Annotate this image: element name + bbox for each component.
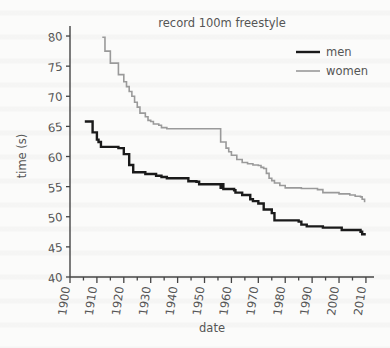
y-tick-label: 70 xyxy=(47,89,63,105)
x-tick-label: 1940 xyxy=(163,285,181,316)
x-tick-label: 1950 xyxy=(190,285,208,316)
x-axis-title: date xyxy=(199,321,225,335)
legend-layer: menwomen xyxy=(296,45,368,78)
y-tick-label: 55 xyxy=(47,180,63,196)
axes-layer: 4045505560657075801900191019201930194019… xyxy=(47,26,374,316)
legend-label-women: women xyxy=(326,64,368,78)
y-tick-label: 80 xyxy=(47,29,63,45)
series-line-men xyxy=(85,122,365,236)
y-tick-label: 65 xyxy=(47,119,63,135)
x-tick-label: 1990 xyxy=(297,285,315,316)
record-100m-freestyle-line-chart: 4045505560657075801900191019201930194019… xyxy=(0,0,390,348)
x-tick-label: 1960 xyxy=(216,285,234,316)
x-tick-label: 1980 xyxy=(270,285,288,316)
y-tick-label: 50 xyxy=(47,210,63,226)
chart-title: record 100m freestyle xyxy=(158,16,285,30)
series-layer xyxy=(85,37,365,235)
y-tick-label: 40 xyxy=(47,270,63,286)
x-tick-label: 1900 xyxy=(55,285,73,316)
x-tick-label: 1970 xyxy=(243,285,261,316)
y-axis-title: time (s) xyxy=(15,134,29,179)
x-tick-label: 2010 xyxy=(351,285,369,316)
series-line-women xyxy=(102,37,364,202)
y-tick-label: 75 xyxy=(47,59,63,75)
y-tick-label: 60 xyxy=(47,150,63,166)
x-tick-label: 1930 xyxy=(136,285,154,316)
chart-figure: 4045505560657075801900191019201930194019… xyxy=(0,0,390,348)
x-tick-label: 1910 xyxy=(82,285,100,316)
x-tick-label: 1920 xyxy=(109,285,127,316)
x-tick-label: 2000 xyxy=(324,285,342,316)
y-tick-label: 45 xyxy=(47,240,63,256)
legend-label-men: men xyxy=(326,45,352,59)
